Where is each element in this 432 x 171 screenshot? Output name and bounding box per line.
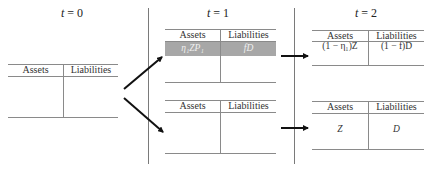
arrow-t0-to-t1-bottom (124, 98, 163, 132)
arrow-t0-to-t1-top (124, 57, 162, 89)
arrows-layer (0, 0, 432, 171)
